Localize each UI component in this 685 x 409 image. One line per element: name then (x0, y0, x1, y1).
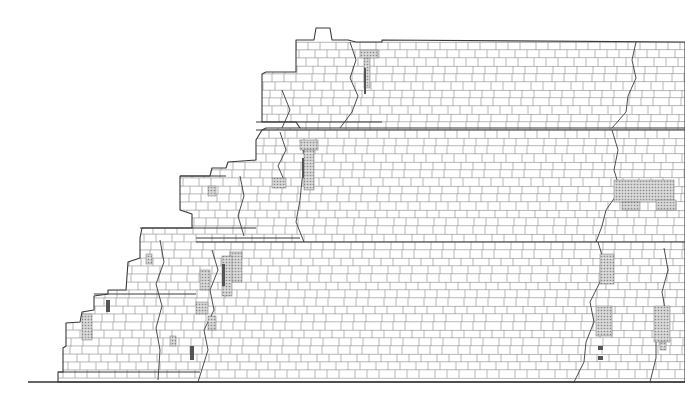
dark-block (598, 346, 603, 350)
hatched-block (146, 254, 152, 264)
hatched-block (596, 306, 612, 336)
dark-block (190, 346, 194, 360)
hatched-block (170, 336, 176, 346)
hatched-block (622, 202, 640, 210)
hatched-block (304, 150, 314, 190)
elevation-canvas (0, 0, 685, 409)
dark-block (364, 68, 366, 94)
hatched-block (660, 342, 666, 350)
hatched-block (208, 186, 216, 196)
hatched-block (272, 178, 286, 188)
elevation-drawing (0, 0, 685, 409)
hatched-block (208, 316, 216, 330)
dark-block (302, 158, 304, 178)
hatched-block (196, 302, 208, 314)
dark-block (106, 300, 110, 312)
hatched-block (360, 50, 378, 58)
dark-block (222, 264, 225, 286)
hatched-block (600, 254, 614, 284)
hatched-block (300, 140, 318, 150)
hatched-block (82, 314, 92, 340)
hatched-block (200, 270, 210, 290)
hatched-block (656, 200, 676, 210)
hatched-block (654, 306, 670, 342)
dark-block (598, 356, 603, 360)
hatched-block (614, 180, 674, 202)
